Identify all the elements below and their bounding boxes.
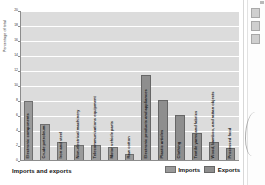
y-tick-mark [18, 86, 20, 87]
sidebar-top-marker [260, 1, 264, 4]
category-label: Textile yarns and fabrics [194, 110, 198, 158]
y-tick-label: 0 [16, 159, 18, 162]
y-tick-mark [18, 41, 20, 42]
y-axis-line [20, 11, 21, 161]
y-tick-label: 8 [16, 99, 18, 102]
y-tick-mark [18, 56, 20, 57]
category-label: Telecommunications equipment [93, 96, 97, 158]
y-axis-title: Percentage of total [3, 0, 7, 52]
y-tick-mark [18, 11, 20, 12]
gridline [20, 11, 239, 12]
category-label: Electronic products and appliances [143, 89, 147, 158]
y-tick-label: 20 [14, 9, 18, 12]
category-label: Electronic components [25, 113, 29, 158]
viewer-sidebar[interactable] [247, 0, 265, 185]
figure-divider [243, 0, 244, 185]
gridline [20, 131, 239, 132]
sidebar-thumbnail-chip[interactable] [251, 21, 260, 31]
gridline [20, 86, 239, 87]
y-tick-label: 12 [14, 69, 18, 72]
category-label: Raw cotton [126, 136, 130, 158]
caption-row: Imports and exports ImportsExports [10, 165, 240, 179]
x-axis-line [20, 160, 239, 161]
document-page: Percentage of total 02468101214161820 El… [0, 0, 265, 185]
chart-figure: Percentage of total 02468101214161820 El… [2, 2, 242, 183]
category-label: Plastic articles [160, 129, 164, 158]
legend-item: Imports [165, 166, 201, 173]
gridline [20, 116, 239, 117]
legend-item: Exports [204, 166, 240, 173]
gridline [20, 56, 239, 57]
y-tick-mark [18, 116, 20, 117]
y-tick-label: 16 [14, 39, 18, 42]
sidebar-thumbnail-chip[interactable] [251, 8, 260, 18]
chart-legend: ImportsExports [165, 166, 240, 173]
y-tick-label: 2 [16, 144, 18, 147]
gridline [20, 101, 239, 102]
category-label: Motor vehicle parts [109, 120, 113, 158]
gridline [20, 71, 239, 72]
legend-label: Imports [178, 167, 200, 173]
sidebar-thumbnail-chip[interactable] [251, 34, 260, 44]
legend-swatch [204, 166, 215, 173]
category-label: Crude petroleum [42, 125, 46, 158]
chart-caption: Imports and exports [12, 168, 72, 174]
category-label: Processed food [227, 127, 231, 158]
gridline [20, 41, 239, 42]
y-tick-label: 18 [14, 24, 18, 27]
y-tick-label: 4 [16, 129, 18, 132]
category-label: Clothing [177, 141, 181, 158]
legend-label: Exports [218, 167, 240, 173]
y-tick-mark [18, 101, 20, 102]
category-label: Non-electrical machinery [76, 109, 80, 158]
y-tick-mark [18, 71, 20, 72]
y-tick-mark [18, 146, 20, 147]
y-tick-label: 10 [14, 84, 18, 87]
legend-swatch [165, 166, 176, 173]
y-tick-mark [18, 26, 20, 27]
page-curl-icon [245, 112, 262, 156]
plot-wrapper: 02468101214161820 Electronic componentsC… [20, 11, 239, 161]
y-tick-label: 14 [14, 54, 18, 57]
y-tick-mark [18, 161, 20, 162]
category-label: Iron and steel [59, 131, 63, 158]
y-tick-label: 6 [16, 114, 18, 117]
y-tick-mark [18, 131, 20, 132]
category-label: Wood, bamboo, and rattan objects [210, 91, 214, 158]
gridline [20, 26, 239, 27]
